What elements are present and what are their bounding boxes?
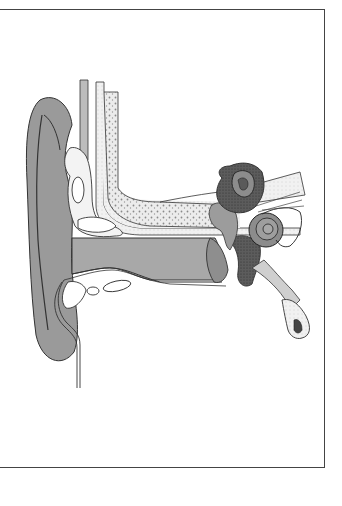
ear-anatomy-illustration bbox=[0, 0, 342, 506]
eustachian-tube bbox=[252, 260, 309, 339]
ear-canal bbox=[64, 238, 226, 286]
middle-ear bbox=[207, 203, 261, 286]
temporal-bone bbox=[80, 80, 305, 235]
auricle bbox=[26, 98, 77, 361]
